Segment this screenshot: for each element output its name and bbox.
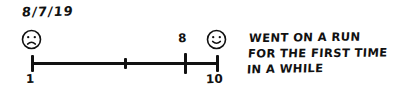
- note-line: WENT ON A RUN: [249, 29, 402, 47]
- scale-max-label: 10: [206, 72, 223, 86]
- happy-face-icon: [206, 29, 227, 50]
- rating-scale: 1 10 8: [0, 0, 250, 90]
- scale-min-label: 1: [26, 72, 35, 86]
- note-line: IN A WHILE: [246, 60, 399, 78]
- sad-face-icon: [21, 29, 42, 50]
- scale-tick-value: [184, 53, 187, 74]
- scale-tick-max: [216, 55, 219, 72]
- scale-tick-min: [31, 55, 34, 72]
- entry-note: WENT ON A RUN FOR THE FIRST TIME IN A WH…: [246, 30, 401, 77]
- scale-marked-value-label: 8: [178, 31, 187, 45]
- scale-tick-mid: [124, 58, 127, 69]
